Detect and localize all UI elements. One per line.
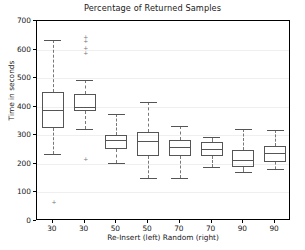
median-line [137,141,159,142]
whisker-upper [116,114,117,135]
whisker-lower [212,156,213,167]
box-random-30 [74,94,96,111]
median-line [169,147,191,148]
cap-lower [108,163,125,164]
box-random-50 [137,132,159,156]
box-re-insert-50 [105,135,127,149]
whisker-lower [275,162,276,169]
chart-title: Percentage of Returned Samples [0,3,305,13]
x-tick-mark-3 [147,220,148,223]
y-tick-label-700: 700 [17,16,31,25]
cap-upper [108,114,125,115]
whisker-upper [85,80,86,93]
plot-area [36,20,290,220]
y-axis-label: Time in seconds [7,36,16,146]
whisker-upper [148,102,149,132]
x-tick-label-4: 70 [174,224,183,233]
cap-upper [44,40,61,41]
whisker-upper [243,129,244,150]
cap-lower [140,178,157,179]
outlier-point [51,200,54,203]
x-tick-mark-7 [274,220,275,223]
cap-lower [235,172,252,173]
whisker-upper [180,126,181,141]
boxplot-series [37,21,289,219]
x-tick-label-2: 50 [111,224,120,233]
cap-lower [203,167,220,168]
y-tick-label-400: 400 [17,101,31,110]
median-line [42,110,64,111]
x-tick-mark-4 [179,220,180,223]
x-tick-mark-1 [84,220,85,223]
whisker-lower [116,149,117,163]
cap-lower [44,154,61,155]
x-axis-label: Re-Insert (left) Random (right) [36,233,290,242]
outlier-point [83,45,86,48]
whisker-lower [85,111,86,129]
x-tick-mark-0 [52,220,53,223]
y-tick-label-600: 600 [17,44,31,53]
x-tick-label-6: 90 [238,224,247,233]
whisker-lower [180,156,181,177]
x-tick-label-7: 90 [269,224,278,233]
y-tick-label-0: 0 [26,216,31,225]
whisker-upper [275,130,276,146]
x-tick-label-5: 70 [206,224,215,233]
box-re-insert-90 [232,150,254,167]
y-tick-label-100: 100 [17,187,31,196]
outlier-point [83,51,86,54]
outlier-point [83,34,86,37]
median-line [74,107,96,108]
x-tick-label-3: 50 [142,224,151,233]
cap-upper [140,102,157,103]
cap-lower [171,178,188,179]
y-tick-label-500: 500 [17,73,31,82]
median-line [201,149,223,150]
figure-canvas: Percentage of Returned Samples 010020030… [0,0,305,250]
whisker-lower [53,128,54,154]
outlier-point [83,157,86,160]
x-tick-mark-6 [242,220,243,223]
cap-upper [235,129,252,130]
whisker-lower [148,156,149,178]
x-tick-mark-5 [211,220,212,223]
outlier-point [83,39,86,42]
x-tick-label-1: 30 [79,224,88,233]
whisker-upper [53,40,54,92]
cap-upper [267,130,284,131]
cap-upper [203,137,220,138]
median-line [232,160,254,161]
cap-lower [267,169,284,170]
cap-upper [76,80,93,81]
y-tick-label-200: 200 [17,158,31,167]
x-tick-label-0: 30 [47,224,56,233]
y-tick-label-300: 300 [17,130,31,139]
cap-upper [171,126,188,127]
median-line [264,153,286,154]
x-tick-mark-2 [115,220,116,223]
cap-lower [76,129,93,130]
y-axis-ticks: 0100200300400500600700 [0,20,36,220]
median-line [105,140,127,141]
